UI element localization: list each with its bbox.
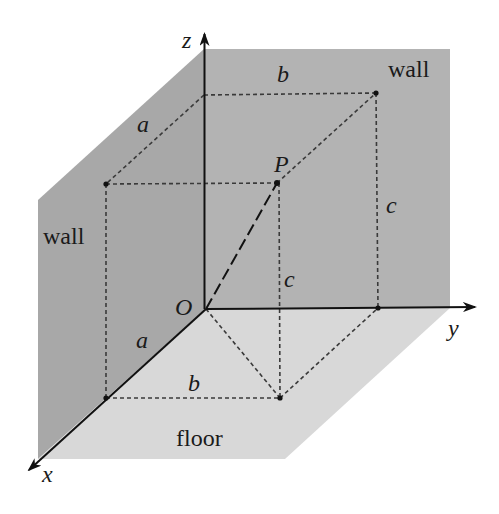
edge-label-top-a: a xyxy=(137,111,149,137)
diagram-canvas: z y x O P a b c c a b wall wall floor xyxy=(0,0,499,514)
edge-label-right-c: c xyxy=(386,192,397,218)
edge-label-floor-a: a xyxy=(136,327,148,353)
back-wall xyxy=(204,49,450,309)
edge-label-center-c: c xyxy=(284,266,295,292)
y-axis-label: y xyxy=(446,315,459,341)
origin-label: O xyxy=(175,294,192,320)
right-wall-label: wall xyxy=(388,56,430,82)
x-axis-label: x xyxy=(41,461,53,487)
point-p-label: P xyxy=(273,151,289,177)
edge-label-top-b: b xyxy=(277,61,289,87)
floor-label: floor xyxy=(176,425,223,451)
left-wall-label: wall xyxy=(43,223,85,249)
edge-label-floor-b: b xyxy=(188,370,200,396)
z-axis-label: z xyxy=(181,27,192,53)
